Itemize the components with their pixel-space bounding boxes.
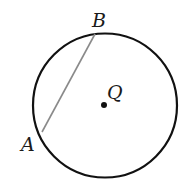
label-a: A — [19, 133, 35, 155]
label-b: B — [91, 9, 106, 31]
circle-diagram: B Q A — [0, 0, 179, 190]
chord-ab — [42, 34, 95, 132]
label-q: Q — [107, 81, 123, 103]
